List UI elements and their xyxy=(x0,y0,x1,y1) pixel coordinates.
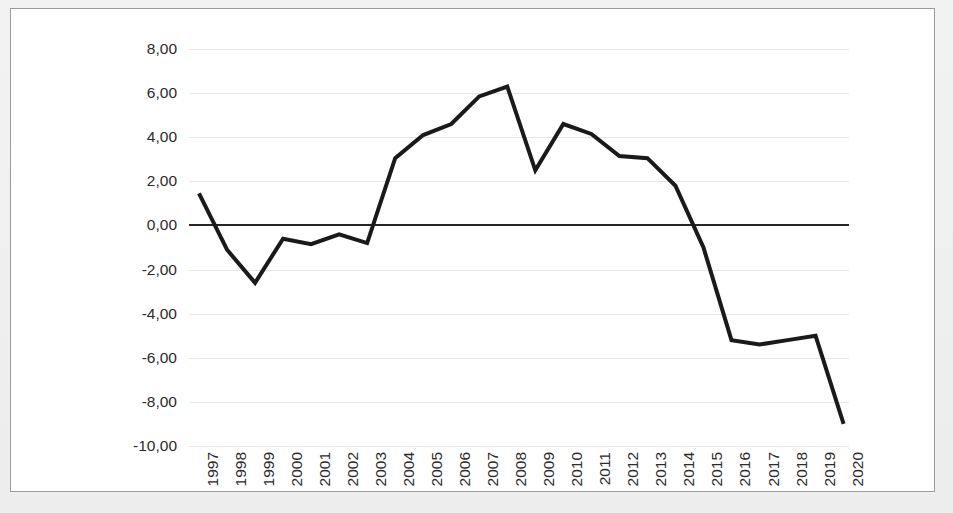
x-tick-label: 2015 xyxy=(709,452,725,486)
x-tick-label: 2004 xyxy=(401,452,417,486)
x-tick-label: 2019 xyxy=(822,452,838,486)
x-tick-label: 2009 xyxy=(541,452,557,486)
y-tick-label: 6,00 xyxy=(147,85,177,101)
x-tick-label: 2020 xyxy=(850,452,866,486)
chart-screenshot: 8,006,004,002,000,00-2,00-4,00-6,00-8,00… xyxy=(0,0,953,513)
series-line-path xyxy=(199,86,844,423)
x-tick-label: 2001 xyxy=(317,452,333,486)
y-tick-label: -2,00 xyxy=(142,262,177,278)
y-tick-label: -6,00 xyxy=(142,350,177,366)
x-tick-label: 2014 xyxy=(681,452,697,486)
x-axis-tick-labels: 1997199819992000200120022003200420052006… xyxy=(189,450,849,513)
x-tick-label: 2006 xyxy=(457,452,473,486)
x-tick-label: 2016 xyxy=(737,452,753,486)
y-tick-label: 8,00 xyxy=(147,41,177,57)
x-tick-label: 2005 xyxy=(429,452,445,486)
chart-frame: 8,006,004,002,000,00-2,00-4,00-6,00-8,00… xyxy=(10,8,935,492)
y-axis-tick-labels: 8,006,004,002,000,00-2,00-4,00-6,00-8,00… xyxy=(107,49,177,446)
x-tick-label: 2018 xyxy=(794,452,810,486)
y-tick-label: -4,00 xyxy=(142,306,177,322)
data-series-line-chart xyxy=(189,49,849,446)
x-tick-label: 2012 xyxy=(625,452,641,486)
x-tick-label: 2003 xyxy=(373,452,389,486)
x-tick-label: 2002 xyxy=(345,452,361,486)
x-tick-label: 2000 xyxy=(289,452,305,486)
y-tick-label: 2,00 xyxy=(147,174,177,190)
gridline xyxy=(189,446,849,447)
y-tick-label: -8,00 xyxy=(142,394,177,410)
x-tick-label: 1997 xyxy=(205,452,221,486)
x-tick-label: 2008 xyxy=(513,452,529,486)
x-tick-label: 2007 xyxy=(485,452,501,486)
y-tick-label: 4,00 xyxy=(147,129,177,145)
x-tick-label: 1998 xyxy=(233,452,249,486)
x-tick-label: 2011 xyxy=(597,452,613,485)
x-tick-label: 2010 xyxy=(569,452,585,486)
y-tick-label: 0,00 xyxy=(147,218,177,234)
y-tick-label: -10,00 xyxy=(133,438,177,454)
plot-area xyxy=(189,49,849,446)
x-tick-label: 2013 xyxy=(653,452,669,486)
x-tick-label: 2017 xyxy=(766,452,782,486)
x-tick-label: 1999 xyxy=(261,452,277,486)
